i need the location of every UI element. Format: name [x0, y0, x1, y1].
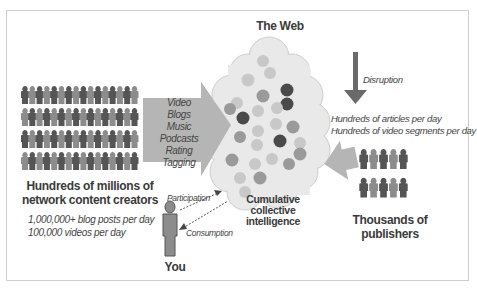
person-icon — [87, 86, 95, 104]
person-icon — [79, 152, 87, 170]
person-icon — [379, 178, 388, 198]
content-creators-crowd — [21, 86, 139, 170]
content-dot-icon — [257, 55, 269, 67]
video-segments-stat: Hundreds of video segments per day — [331, 125, 476, 137]
person-icon — [399, 149, 408, 169]
person-icon — [359, 149, 368, 169]
person-icon — [359, 178, 368, 198]
person-icon — [116, 152, 124, 170]
person-icon — [58, 152, 66, 170]
content-dot-icon — [251, 139, 263, 151]
publishers-crowd — [359, 149, 407, 197]
person-icon — [65, 86, 73, 104]
cci-line3: intelligence — [228, 216, 318, 227]
person-icon — [109, 130, 117, 148]
person-icon — [101, 86, 109, 104]
person-icon — [43, 86, 51, 104]
creators-title-line1: Hundreds of millions of — [12, 179, 168, 193]
person-icon — [21, 130, 29, 148]
person-icon — [94, 108, 102, 126]
content-dot-icon — [270, 118, 282, 130]
person-icon — [87, 108, 95, 126]
content-dot-icon — [234, 131, 246, 143]
person-icon — [72, 108, 80, 126]
person-icon — [109, 108, 117, 126]
person-icon — [389, 178, 398, 198]
person-icon — [123, 152, 131, 170]
content-dot-icon — [266, 153, 278, 165]
consumption-arrow-icon — [179, 201, 228, 230]
person-icon — [72, 152, 80, 170]
content-dot-icon — [294, 137, 306, 149]
person-icon — [43, 152, 51, 170]
you-person-icon — [163, 201, 177, 256]
content-dot-icon — [249, 158, 261, 170]
person-icon — [43, 108, 51, 126]
media-type-podcasts: Podcasts — [150, 133, 208, 145]
content-dot-icon — [257, 90, 270, 103]
you-label: You — [160, 260, 190, 274]
person-icon — [116, 108, 124, 126]
person-icon — [116, 86, 124, 104]
person-icon — [79, 108, 87, 126]
person-icon — [28, 108, 36, 126]
person-icon — [131, 152, 139, 170]
person-icon — [379, 149, 388, 169]
media-type-blogs: Blogs — [150, 109, 208, 121]
person-icon — [79, 86, 87, 104]
content-dot-icon — [252, 105, 264, 117]
person-icon — [399, 178, 408, 198]
creators-title: Hundreds of millions of network content … — [12, 179, 168, 207]
person-icon — [87, 130, 95, 148]
person-icon — [28, 86, 36, 104]
person-icon — [116, 130, 124, 148]
person-icon — [50, 152, 58, 170]
person-icon — [21, 86, 29, 104]
media-types-list: Video Blogs Music Podcasts Rating Taggin… — [150, 97, 208, 169]
videos-stat: 100,000 videos per day — [28, 226, 154, 239]
person-icon — [58, 108, 66, 126]
person-icon — [65, 152, 73, 170]
disruption-label: Disruption — [363, 74, 403, 85]
person-icon — [36, 130, 44, 148]
person-icon — [131, 86, 139, 104]
web2-participation-diagram: The Web Video Blogs Music Podcasts Ratin… — [0, 0, 477, 288]
person-icon — [94, 152, 102, 170]
content-dot-icon — [226, 154, 239, 167]
diagram-artwork — [0, 0, 477, 288]
content-dot-icon — [271, 102, 283, 114]
person-icon — [36, 108, 44, 126]
blog-posts-stat: 1,000,000+ blog posts per day — [28, 213, 154, 226]
person-icon — [389, 149, 398, 169]
person-icon — [123, 86, 131, 104]
publishers-title: Thousands of publishers — [345, 213, 435, 241]
person-icon — [43, 130, 51, 148]
person-icon — [72, 130, 80, 148]
person-icon — [79, 130, 87, 148]
person-icon — [28, 130, 36, 148]
content-dot-icon — [287, 121, 300, 134]
person-icon — [94, 86, 102, 104]
person-icon — [65, 130, 73, 148]
person-icon — [369, 149, 378, 169]
person-icon — [131, 108, 139, 126]
person-icon — [36, 86, 44, 104]
content-dot-icon — [234, 172, 246, 184]
person-icon — [58, 130, 66, 148]
consumption-label: Consumption — [186, 228, 233, 238]
participation-label: Participation — [167, 193, 210, 203]
person-icon — [28, 152, 36, 170]
content-dot-icon — [274, 135, 287, 148]
person-icon — [21, 108, 29, 126]
person-icon — [87, 152, 95, 170]
person-icon — [123, 130, 131, 148]
person-icon — [101, 152, 109, 170]
publishers-title-line1: Thousands of — [345, 213, 435, 227]
person-icon — [101, 130, 109, 148]
person-icon — [109, 86, 117, 104]
person-icon — [109, 152, 117, 170]
content-dot-icon — [281, 84, 294, 97]
person-icon — [50, 130, 58, 148]
publisher-stats: Hundreds of articles per day Hundreds of… — [331, 113, 476, 137]
person-icon — [72, 86, 80, 104]
